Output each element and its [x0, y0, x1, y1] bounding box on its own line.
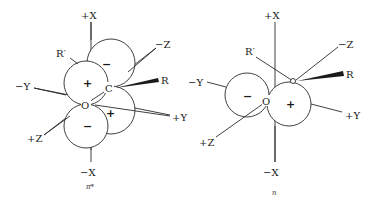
plus-z-label: +Z	[27, 133, 42, 144]
minus-y-label: −Y	[188, 77, 203, 88]
oxygen-atom-label: O	[262, 96, 270, 107]
o-lower-sign: −	[83, 120, 92, 133]
panel-n: O − + +X −X −Y +Y +Z −Z R R′ n	[188, 10, 360, 197]
plus-x-label: +X	[264, 10, 280, 21]
orbital-diagram: C O + − − + +X −X −Y +Y +Z −Z R R′ π* O …	[0, 0, 376, 206]
c-upper-sign: −	[102, 58, 111, 71]
carbon-atom	[291, 79, 296, 84]
r-label: R	[161, 75, 169, 86]
carbon-atom-label: C	[105, 83, 113, 94]
minus-z-label: −Z	[155, 39, 170, 50]
minus-y-label: −Y	[15, 81, 30, 92]
oxygen-atom-label: O	[81, 100, 89, 111]
r-prime-bond	[70, 58, 78, 64]
panel-pi-star: C O + − − + +X −X −Y +Y +Z −Z R R′ π*	[15, 10, 187, 191]
plus-z-label: +Z	[199, 137, 214, 148]
r-prime-bond	[256, 57, 293, 81]
c-lower-sign: +	[106, 107, 115, 120]
o-upper-sign: +	[83, 77, 92, 90]
plus-lobe-sign: +	[286, 98, 295, 111]
r-prime-label: R′	[245, 46, 256, 57]
plus-y-label: +Y	[345, 110, 360, 121]
n-caption: n	[272, 189, 277, 197]
plus-y-axis-segment	[311, 104, 342, 112]
r-wedge-bond	[297, 71, 344, 81]
plus-x-label: +X	[81, 10, 97, 21]
pi-star-caption: π*	[85, 183, 95, 191]
minus-y-axis-segment	[34, 88, 66, 95]
plus-y-label: +Y	[172, 112, 187, 123]
minus-x-label: −X	[263, 167, 279, 178]
minus-z-label: −Z	[338, 39, 353, 50]
minus-lobe-sign: −	[243, 90, 252, 103]
r-prime-label: R′	[56, 48, 67, 59]
minus-x-label: −X	[80, 167, 96, 178]
r-label: R	[346, 69, 354, 80]
minus-y-axis-segment	[207, 82, 226, 87]
